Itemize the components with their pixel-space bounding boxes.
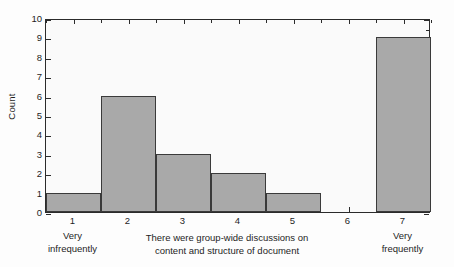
x-axis-title: There were group-wide discussions oncont…: [0, 232, 454, 257]
x-axis-minor-tick-top: [46, 20, 47, 23]
bar: [266, 193, 321, 212]
x-tick-label: 7: [400, 216, 405, 226]
x-tick-label: 2: [125, 216, 130, 226]
y-axis-tick: [46, 98, 51, 99]
x-axis-minor-tick-top: [101, 20, 102, 23]
x-axis-title-line: There were group-wide discussions on: [0, 232, 454, 245]
y-axis-tick: [46, 136, 51, 137]
y-axis-minor-tick-right: [426, 30, 429, 31]
x-axis-tick-top: [349, 20, 350, 24]
y-tick-label: 5: [20, 111, 42, 121]
y-axis-tick: [46, 78, 51, 79]
x-axis-minor-tick-top: [376, 20, 377, 23]
y-tick-label: 2: [20, 169, 42, 179]
x-tick-label: 1: [70, 216, 75, 226]
y-tick-label: 10: [20, 14, 42, 24]
x-axis-tick-top: [184, 20, 185, 24]
y-tick-label: 4: [20, 131, 42, 141]
y-axis-tick: [46, 39, 51, 40]
bar: [156, 154, 211, 212]
x-tick-label: 5: [290, 216, 295, 226]
y-axis-title-text: Count: [6, 93, 17, 119]
x-tick-label: 6: [345, 216, 350, 226]
x-axis-minor-tick-top: [431, 20, 432, 23]
x-axis-tick-labels: 1234567: [45, 216, 430, 230]
x-axis-tick-top: [74, 20, 75, 24]
x-axis-minor-tick-top: [266, 20, 267, 23]
bar: [211, 173, 266, 212]
x-axis-minor-tick-top: [211, 20, 212, 23]
bar: [376, 37, 431, 212]
x-axis-tick-top: [129, 20, 130, 24]
x-axis-tick: [349, 207, 350, 212]
x-tick-label: 4: [235, 216, 240, 226]
x-axis-tick-top: [294, 20, 295, 24]
x-axis-minor-tick-top: [156, 20, 157, 23]
y-tick-label: 1: [20, 189, 42, 199]
bar: [46, 193, 101, 212]
x-axis-tick-top: [404, 20, 405, 24]
y-axis-title: Count: [0, 0, 22, 212]
x-axis-minor-tick-top: [321, 20, 322, 23]
y-tick-label: 6: [20, 92, 42, 102]
bar: [101, 96, 156, 212]
plot-area: [45, 19, 430, 213]
x-axis-title-line: content and structure of document: [0, 245, 454, 258]
y-axis-tick: [46, 117, 51, 118]
plot-inner: [46, 20, 429, 212]
y-axis-tick-right: [424, 214, 429, 215]
y-tick-label: 3: [20, 150, 42, 160]
y-tick-label: 9: [20, 34, 42, 44]
histogram-chart: Count 012345678910 1234567 Veryinfrequen…: [0, 0, 454, 267]
y-axis-tick: [46, 175, 51, 176]
y-axis-tick-labels: 012345678910: [20, 13, 42, 213]
y-axis-tick: [46, 214, 51, 215]
y-tick-label: 7: [20, 72, 42, 82]
y-axis-tick-right: [424, 20, 429, 21]
y-tick-label: 0: [20, 208, 42, 218]
x-axis-tick-top: [239, 20, 240, 24]
y-axis-tick: [46, 156, 51, 157]
y-tick-label: 8: [20, 53, 42, 63]
x-tick-label: 3: [180, 216, 185, 226]
y-axis-tick: [46, 59, 51, 60]
